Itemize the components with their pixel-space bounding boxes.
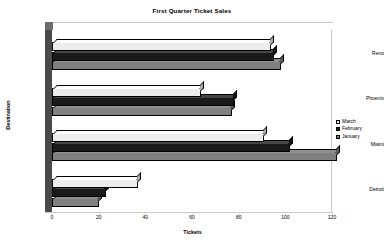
bar-side-face [233,90,237,101]
legend-swatch-icon [336,135,340,139]
bar-side-face [280,54,284,65]
x-tick-label: 100 [273,214,297,220]
bar-group [52,76,332,122]
y-category-label: Detroit [340,186,384,192]
bar-group [52,30,332,76]
bar-group [52,121,332,167]
x-tick-label: 120 [320,214,344,220]
y-category-label: Reno [340,50,384,56]
bar-march-miami [52,133,264,142]
bar-side-face [273,45,277,56]
y-category-label: Miami [340,141,384,147]
bar-january-detroit [52,198,99,207]
legend-item-february[interactable]: February [336,125,362,132]
category-axis-wall-top [45,22,53,30]
bar-march-reno [52,42,271,51]
bar-february-detroit [52,188,106,197]
legend-swatch-icon [336,120,340,124]
x-tick-label: 40 [133,214,157,220]
bar-february-reno [52,52,274,61]
bar-top-face [53,85,204,89]
bar-february-miami [52,143,290,152]
bar-side-face [289,136,293,147]
plot-floor-line [45,212,333,213]
legend-item-january[interactable]: January [336,133,362,140]
bar-top-face [53,39,274,43]
bar-side-face [137,172,141,183]
legend-label: March [342,118,356,125]
y-axis-title: Destination [5,95,11,135]
chart-container: First Quarter Ticket Sales 0204060801001… [0,0,384,250]
legend-swatch-icon [336,127,340,131]
legend-label: January [342,133,360,140]
bar-january-miami [52,152,337,161]
bar-top-face [53,176,141,180]
bar-march-detroit [52,179,138,188]
bar-february-phoenix [52,97,234,106]
x-tick-label: 80 [227,214,251,220]
bar-group [52,167,332,213]
bar-side-face [270,35,274,46]
bar-side-face [263,126,267,137]
legend-item-march[interactable]: March [336,118,362,125]
chart-legend: MarchFebruaryJanuary [336,118,362,140]
plot-top-face [52,22,333,30]
legend-label: February [342,125,362,132]
bar-january-reno [52,61,281,70]
bar-march-phoenix [52,88,201,97]
bar-side-face [200,81,204,92]
x-tick-label: 0 [40,214,64,220]
x-axis-title: Tickets [52,229,333,235]
bar-january-phoenix [52,107,232,116]
x-tick-label: 60 [180,214,204,220]
chart-title: First Quarter Ticket Sales [0,7,384,14]
x-tick-label: 20 [87,214,111,220]
bar-side-face [336,145,340,156]
bar-top-face [53,130,267,134]
y-category-label: Phoenix [340,95,384,101]
category-axis-wall [45,29,52,212]
